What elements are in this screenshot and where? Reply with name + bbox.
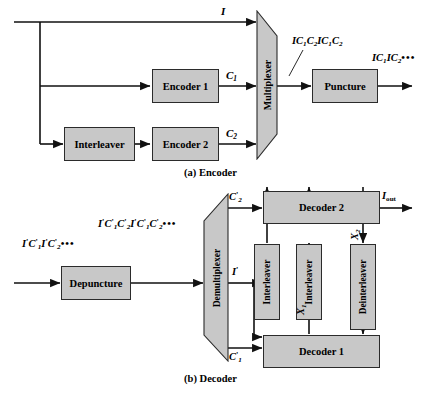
depuncture-block[interactable]: Depuncture (61, 266, 131, 300)
encoder1-block[interactable]: Encoder 1 (152, 69, 219, 103)
signal-label-c1: C1 (226, 69, 237, 83)
interleaver2-label: Interleaver (304, 260, 314, 305)
puncture-label: Puncture (324, 81, 365, 92)
signal-label-c2-prime: C'2 (229, 191, 242, 204)
caption-decoder: (b) Decoder (0, 373, 421, 384)
signal-label-decoder-input: I'C'1I'C'2••• (22, 238, 75, 251)
decoder2-block[interactable]: Decoder 2 (263, 191, 380, 224)
signal-label-c1-prime: C'1 (229, 351, 242, 364)
interleaver1-label: Interleaver (262, 260, 272, 305)
decoder1-label: Decoder 1 (299, 346, 344, 357)
signal-label-puncture-output: IC1IC2••• (372, 52, 415, 65)
signal-label-i-prime: I' (232, 266, 238, 277)
signal-label-x1: X1 (295, 304, 308, 315)
signal-label-input: I (221, 5, 225, 17)
puncture-block[interactable]: Puncture (312, 69, 378, 103)
demultiplexer-label: Demultiplexer (211, 248, 222, 307)
encoder2-block[interactable]: Encoder 2 (152, 127, 219, 161)
signal-label-depuncture-output: I'C'1C'2I'C'1C'2••• (98, 218, 177, 231)
multiplexer-block[interactable]: Multiplexer (256, 10, 278, 160)
depuncture-label: Depuncture (70, 278, 123, 289)
signal-label-c2: C2 (226, 127, 237, 141)
decoder2-label: Decoder 2 (299, 202, 344, 213)
encoder1-label: Encoder 1 (163, 81, 209, 92)
caption-encoder: (a) Encoder (0, 167, 421, 178)
deinterleaver-block[interactable]: Deinterleaver (350, 244, 376, 330)
deinterleaver-label: Deinterleaver (358, 260, 368, 315)
interleaver-block[interactable]: Interleaver (64, 127, 135, 161)
demultiplexer-block[interactable]: Demultiplexer (203, 193, 229, 362)
signal-label-x2: X2 (349, 229, 362, 240)
signal-label-mux-output: IC1C2IC1C2 (292, 35, 343, 48)
multiplexer-label: Multiplexer (262, 60, 273, 111)
interleaver-label: Interleaver (74, 139, 124, 150)
interleaver1-block[interactable]: Interleaver (254, 244, 280, 320)
signal-label-output: Iout (382, 190, 396, 203)
encoder2-label: Encoder 2 (163, 139, 209, 150)
decoder1-block[interactable]: Decoder 1 (263, 335, 380, 368)
